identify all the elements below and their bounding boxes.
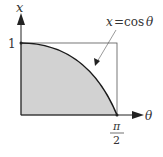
leader-line [97,30,116,62]
svg-text:θ: θ [146,15,154,29]
x-tick-numerator: π [112,120,121,133]
curve-equation-label: x = cos θ [106,15,154,29]
horizontal-axis-arrow-icon [132,111,144,119]
svg-text:=: = [114,15,124,29]
horizontal-axis-label: θ [145,109,153,123]
y-tick-label: 1 [8,37,16,51]
leader-arrow-icon [94,58,100,66]
point-one [20,42,23,45]
x-tick-denominator: 2 [113,134,120,147]
cos-area-diagram: x 1 θ π 2 x = cos θ [0,0,163,157]
vertical-axis-label: x [16,0,24,15]
svg-text:cos: cos [124,15,144,29]
svg-text:x: x [106,15,113,29]
point-pi-over-2 [116,114,119,117]
shaded-area [21,43,117,115]
